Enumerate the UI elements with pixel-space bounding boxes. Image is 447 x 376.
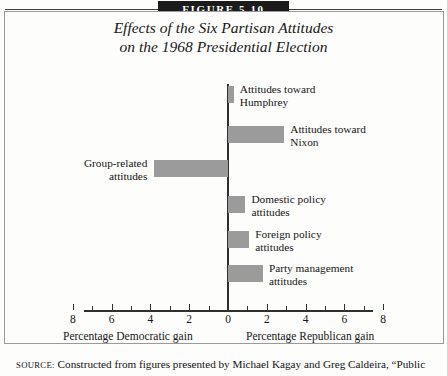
bar-label-foreign-policy-attitudes: Foreign policyattitudes [255,228,321,254]
bar-label-group-related-attitudes: Group-relatedattitudes [84,157,147,183]
axis-tick-label: 2 [179,313,199,325]
bar-label-line-1: Attitudes toward [240,83,316,96]
bar-label-attitudes-toward-humphrey: Attitudes towardHumphrey [240,83,316,109]
axis-tick-label: 4 [296,313,316,325]
axis-tick-major [73,304,74,310]
axis-tick-minor [286,306,287,310]
axis-tick-major [228,304,229,310]
bar-label-line-2: attitudes [255,241,321,254]
source-label: SOURCE: [16,360,55,370]
bar-label-line-1: Foreign policy [255,228,321,241]
bar-label-party-management-attitudes: Party managementattitudes [269,262,353,288]
axis-tick-label: 6 [334,313,354,325]
bar-label-line-2: attitudes [269,275,353,288]
bar-foreign-policy-attitudes [228,231,249,248]
bar-domestic-policy-attitudes [228,196,245,213]
source-note: SOURCE: Constructed from figures present… [16,358,441,372]
bar-label-attitudes-toward-nixon: Attitudes towardNixon [290,123,366,149]
bar-label-line-2: Nixon [290,136,366,149]
axis-tick-major [189,304,190,310]
axis-tick-label: 4 [140,313,160,325]
axis-tick-major [267,304,268,310]
bar-group-related-attitudes [154,160,228,177]
bar-label-line-1: Group-related [84,157,147,170]
axis-tick-label: 2 [257,313,277,325]
axis-tick-major [306,304,307,310]
source-text: Constructed from figures presented by Mi… [58,358,426,370]
bar-label-line-1: Domestic policy [251,193,325,206]
axis-caption-republican: Percentage Republican gain [246,330,374,342]
axis-tick-label: 6 [102,313,122,325]
bar-attitudes-toward-humphrey [228,86,234,103]
bar-label-line-2: attitudes [84,170,147,183]
axis-tick-minor [325,306,326,310]
axis-tick-label: 8 [373,313,393,325]
axis-tick-label: 8 [63,313,83,325]
axis-tick-minor [364,306,365,310]
axis-tick-major [150,304,151,310]
axis-tick-minor [209,306,210,310]
axis-tick-major [344,304,345,310]
axis-tick-major [112,304,113,310]
bar-label-line-2: attitudes [251,206,325,219]
chart-plot-area: Attitudes towardHumphreyAttitudes toward… [0,0,447,344]
axis-caption-democratic: Percentage Democratic gain [63,330,193,342]
axis-tick-minor [92,306,93,310]
bar-party-management-attitudes [228,265,263,282]
axis-tick-major [383,304,384,310]
bar-label-line-1: Party management [269,262,353,275]
bar-label-line-1: Attitudes toward [290,123,366,136]
axis-tick-label: 0 [218,313,238,325]
bar-attitudes-toward-nixon [228,126,284,143]
axis-tick-minor [247,306,248,310]
bar-label-domestic-policy-attitudes: Domestic policyattitudes [251,193,325,219]
bar-label-line-2: Humphrey [240,96,316,109]
axis-tick-minor [170,306,171,310]
x-axis-line [84,310,373,312]
axis-tick-minor [131,306,132,310]
